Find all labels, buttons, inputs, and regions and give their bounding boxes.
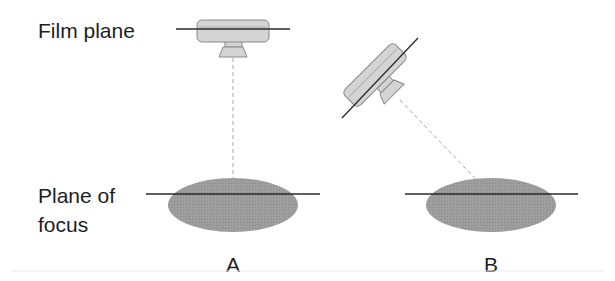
panel-a: A <box>146 20 320 276</box>
film-plane-label: Film plane <box>38 19 135 42</box>
panel-label-a: A <box>226 253 240 276</box>
film-plane-line-b <box>342 38 418 118</box>
subject-ellipse-b <box>426 178 556 232</box>
plane-of-focus-label-line1: Plane of <box>38 184 115 207</box>
plane-of-focus-label-line2: focus <box>38 213 88 236</box>
panel-label-b: B <box>484 253 498 276</box>
panel-b: B <box>342 38 578 276</box>
camera-tilt-diagram: Film plane Plane of focus A <box>0 0 615 281</box>
camera-icon-b <box>342 42 420 120</box>
camera-icon-a <box>197 20 269 57</box>
